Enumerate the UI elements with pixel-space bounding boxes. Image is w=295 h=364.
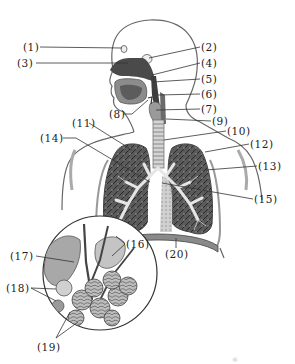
heart-space [148,174,162,232]
respiratory-system-diagram: ® (1) (2) (3) (4) (5) (6) (7) (8) (9) (1… [0,0,295,364]
label-17: (17) [10,250,34,262]
label-5: (5) [201,73,217,85]
frontal-sinus [121,46,127,53]
left-lung [168,144,213,234]
label-9: (9) [212,115,228,127]
label-2: (2) [201,41,217,53]
label-18: (18) [6,282,30,294]
label-16: (16) [126,238,150,250]
epiglottis [148,97,152,104]
label-4: (4) [201,57,217,69]
diagram-artwork: ® [0,0,295,364]
esophagus [160,92,166,124]
label-20: (20) [165,248,189,260]
rib-edge-right [220,248,224,258]
label-15: (15) [254,193,278,205]
label-14: (14) [40,132,64,144]
watermark-mark: ® [232,356,238,363]
label-10: (10) [227,125,251,137]
alveoli-inset [43,216,157,330]
label-6: (6) [201,88,217,100]
nasal-cavity [110,58,154,82]
trachea [153,120,164,168]
label-3: (3) [17,57,33,69]
label-1: (1) [23,41,39,53]
label-19: (19) [37,341,61,353]
label-8: (8) [109,108,125,120]
label-12: (12) [250,138,274,150]
label-11: (11) [72,117,96,129]
label-7: (7) [201,103,217,115]
label-13: (13) [258,160,282,172]
